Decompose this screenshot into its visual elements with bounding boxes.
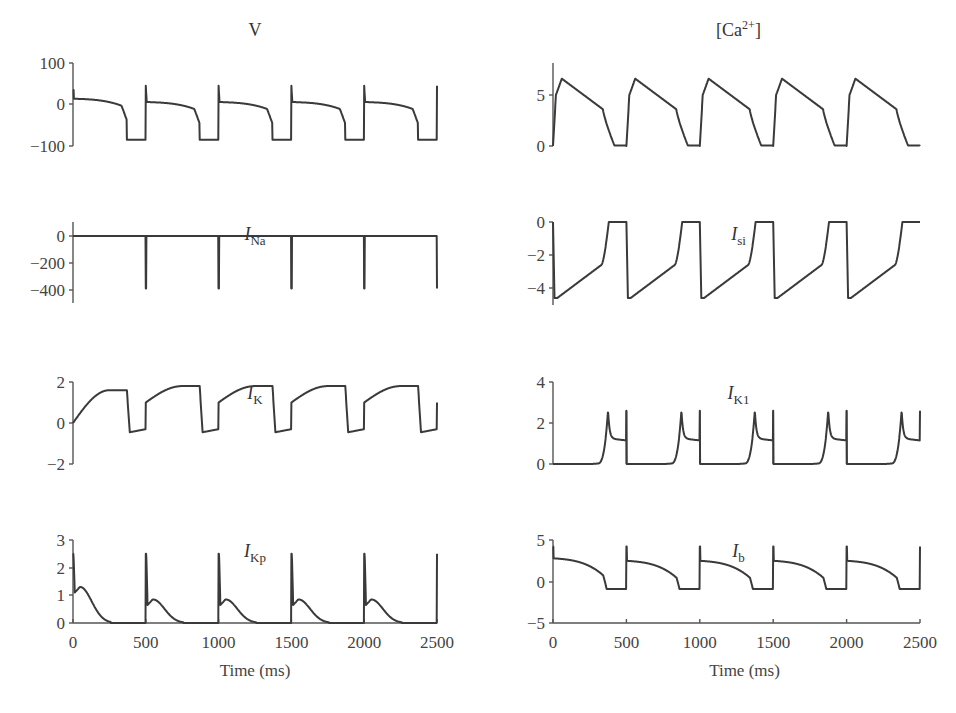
y-tick-label: −5	[527, 614, 545, 633]
x-tick-label: 500	[133, 633, 159, 652]
panel-title: Ib	[731, 541, 745, 565]
y-tick-label: −2	[47, 455, 65, 474]
y-tick-label: 100	[40, 54, 66, 73]
y-tick-label: 5	[537, 86, 546, 105]
panel-title: [Ca2+]	[716, 18, 761, 40]
panel-i-k1: 420IK1	[537, 373, 921, 474]
x-axis-label: Time (ms)	[220, 661, 291, 680]
x-tick-label: 500	[614, 633, 640, 652]
trace-line	[73, 86, 437, 140]
y-tick-label: 4	[537, 373, 546, 392]
y-tick-label: 0	[57, 414, 66, 433]
x-tick-label: 0	[549, 633, 558, 652]
y-tick-label: 0	[57, 614, 66, 633]
y-tick-label: −2	[527, 246, 545, 265]
x-tick-label: 2000	[347, 633, 381, 652]
x-tick-label: 2500	[903, 633, 937, 652]
x-tick-label: 1000	[683, 633, 717, 652]
y-tick-label: 2	[57, 373, 66, 392]
y-tick-label: −4	[527, 279, 546, 298]
x-axis-label: Time (ms)	[709, 661, 780, 680]
panel-i-kp: 3210IKp05001000150020002500Time (ms)	[57, 531, 455, 680]
panel-title: IK1	[727, 383, 750, 407]
y-tick-label: 0	[537, 455, 546, 474]
y-tick-label: 2	[57, 559, 66, 578]
panel-i-k: 20−2IK	[47, 373, 437, 474]
x-tick-label: 2500	[420, 633, 454, 652]
y-tick-label: 3	[57, 531, 66, 550]
x-tick-label: 0	[69, 633, 78, 652]
x-tick-label: 1500	[756, 633, 790, 652]
panel-i-b: 50−5Ib05001000150020002500Time (ms)	[527, 531, 937, 680]
panel--ca2-: 50[Ca2+]	[537, 18, 921, 156]
trace-line	[553, 79, 920, 146]
figure-canvas: 1000−100V50[Ca2+]0−200−400INa0−2−4Isi20−…	[0, 0, 956, 713]
panel-title: Isi	[730, 224, 746, 248]
panel-i-si: 0−2−4Isi	[527, 213, 920, 305]
y-tick-label: 0	[537, 573, 546, 592]
trace-line	[553, 411, 920, 464]
y-tick-label: 1	[57, 586, 66, 605]
panel-i-na: 0−200−400INa	[30, 222, 437, 303]
y-tick-label: −400	[30, 281, 65, 300]
y-tick-label: 2	[537, 414, 546, 433]
y-tick-label: 5	[537, 531, 546, 550]
panel-title: IKp	[243, 541, 266, 565]
panel-title: V	[249, 20, 262, 40]
y-tick-label: −200	[30, 254, 65, 273]
y-tick-label: 0	[537, 137, 546, 156]
panel-v: 1000−100V	[30, 20, 437, 156]
y-tick-label: 0	[537, 213, 546, 232]
y-tick-label: 0	[57, 227, 66, 246]
x-tick-label: 1000	[202, 633, 236, 652]
y-tick-label: 0	[57, 95, 66, 114]
x-tick-label: 1500	[274, 633, 308, 652]
x-tick-label: 2000	[830, 633, 864, 652]
y-tick-label: −100	[30, 137, 65, 156]
